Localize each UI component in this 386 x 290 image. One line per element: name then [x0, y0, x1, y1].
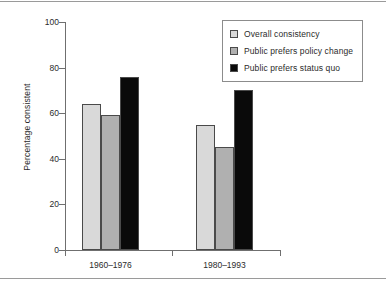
legend-item-label: Overall consistency — [244, 29, 320, 39]
legend-item: Overall consistency — [230, 27, 353, 41]
x-axis-tick — [172, 250, 173, 256]
bar — [120, 77, 139, 250]
x-axis-tick — [280, 250, 281, 256]
legend-swatch-icon — [230, 47, 238, 55]
x-axis-category-label: 1960–1976 — [89, 260, 132, 270]
bar — [101, 115, 120, 250]
bar — [196, 125, 215, 250]
x-axis-category-label: 1980–1993 — [203, 260, 246, 270]
page-rule-bottom — [0, 278, 386, 279]
x-axis-tick — [65, 250, 66, 256]
legend-item-label: Public prefers policy change — [244, 46, 353, 56]
legend-swatch-icon — [230, 64, 238, 72]
legend-item: Public prefers policy change — [230, 44, 353, 58]
legend-swatch-icon — [230, 30, 238, 38]
legend-item: Public prefers status quo — [230, 61, 353, 75]
chart-legend: Overall consistency Public prefers polic… — [222, 20, 363, 82]
bar — [215, 147, 234, 250]
bar — [82, 104, 101, 250]
legend-item-label: Public prefers status quo — [244, 63, 340, 73]
bar-chart-figure: Percentage consistent 020406080100 1960–… — [0, 2, 386, 278]
bar — [234, 90, 253, 250]
